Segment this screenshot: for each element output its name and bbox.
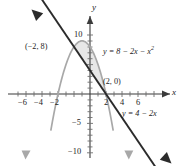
x-axis-label: x (172, 88, 176, 97)
graph-figure: y x −6 −4 −2 2 4 6 10 −5 −10 (−2, 8) (2,… (0, 0, 187, 166)
parabola-equation-label: y = 8 − 2x − x2 (103, 45, 154, 56)
y-axis-label: y (92, 3, 96, 12)
x-tick-label-2: 2 (104, 99, 108, 107)
point-label-lower: (2, 0) (103, 78, 121, 86)
x-tick-label-neg2: −2 (50, 99, 59, 107)
y-tick-label-10: 10 (74, 31, 82, 39)
x-tick-label-4: 4 (120, 99, 124, 107)
coordinate-plot (0, 0, 187, 166)
y-tick-label-neg5: −5 (72, 119, 81, 127)
parabola-left-arrow (22, 151, 31, 160)
x-axis-arrow (162, 91, 170, 98)
line-equation-label: y = 4 − 2x (122, 110, 157, 118)
x-tick-label-neg6: −6 (18, 99, 27, 107)
y-axis-arrow (87, 16, 94, 24)
parabola-equation-text: y = 8 − 2x − x (103, 47, 151, 56)
parabola-equation-exponent: 2 (151, 45, 154, 51)
y-tick-label-neg10: −10 (68, 148, 81, 156)
line-lower-arrow (160, 152, 172, 163)
point-label-upper: (−2, 8) (25, 43, 47, 51)
x-tick-label-neg4: −4 (34, 99, 43, 107)
x-tick-label-6: 6 (136, 99, 140, 107)
parabola-right-arrow (124, 151, 133, 160)
line-upper-arrow (32, 10, 44, 21)
